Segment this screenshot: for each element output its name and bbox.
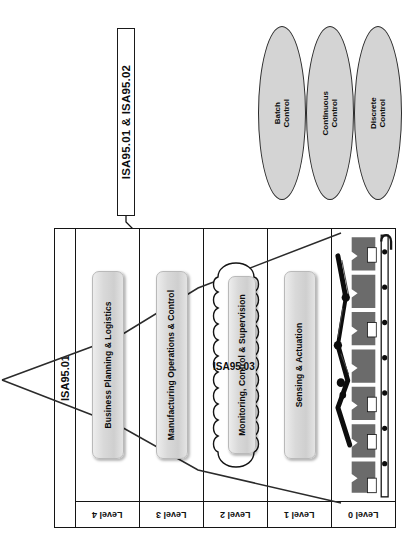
level-1-footer: Level 1	[268, 501, 331, 527]
function-box-manufacturing-operations-label: Manufacturing Operations & Control	[167, 290, 177, 440]
level-column-2: ISA95.03 Monitoring, Control & Supervisi…	[204, 229, 268, 527]
isa9503-cloud-label: ISA95.03	[213, 361, 255, 372]
discrete-line1: Discrete	[369, 97, 378, 129]
function-box-business-planning-label: Business Planning & Logistics	[103, 301, 113, 428]
level-column-3: Manufacturing Operations & Control Level…	[140, 229, 204, 527]
level-2-label: Level 2	[220, 510, 251, 520]
standards-callout-box: ISA95.01 & ISA95.02	[117, 28, 135, 216]
ellipse-batch-control: Batch Control	[258, 26, 306, 200]
ellipse-continuous-control-label: Continuous Control	[321, 91, 339, 135]
ellipse-discrete-control: Discrete Control	[354, 26, 402, 200]
level-4-label: Level 4	[92, 510, 123, 520]
level-column-4: Business Planning & Logistics Level 4	[76, 229, 140, 527]
function-box-sensing-actuation: Sensing & Actuation	[284, 271, 316, 459]
level-0-label: Level 0	[348, 510, 379, 520]
continuous-line1: Continuous	[321, 91, 330, 135]
level-3-footer: Level 3	[140, 501, 203, 527]
level-2-body: ISA95.03 Monitoring, Control & Supervisi…	[204, 229, 267, 501]
batch-line2: Control	[282, 99, 291, 127]
ellipse-continuous-control: Continuous Control	[306, 26, 354, 200]
isa9501-side-label: ISA95.01	[59, 355, 71, 401]
level-4-footer: Level 4	[76, 501, 139, 527]
level-4-body: Business Planning & Logistics	[76, 229, 139, 501]
isa9503-cloud-label-wrap: ISA95.03	[213, 356, 255, 374]
level-column-1: Sensing & Actuation Level 1	[268, 229, 332, 527]
ellipse-batch-control-label: Batch Control	[273, 99, 291, 127]
function-box-business-planning: Business Planning & Logistics	[92, 271, 124, 459]
level-columns: Business Planning & Logistics Level 4 Ma…	[76, 229, 395, 527]
isa9501-side-strip: ISA95.01	[55, 229, 76, 527]
level-2-footer: Level 2	[204, 501, 267, 527]
batch-line1: Batch	[273, 102, 282, 124]
continuous-line2: Control	[330, 99, 339, 127]
level-0-body	[332, 229, 395, 501]
level-1-label: Level 1	[284, 510, 315, 520]
level-3-body: Manufacturing Operations & Control	[140, 229, 203, 501]
level-1-body: Sensing & Actuation	[268, 229, 331, 501]
ellipse-discrete-control-label: Discrete Control	[369, 97, 387, 129]
discrete-line2: Control	[378, 99, 387, 127]
function-box-sensing-actuation-label: Sensing & Actuation	[295, 323, 305, 408]
level-column-0: Level 0	[332, 229, 395, 527]
level-3-label: Level 3	[156, 510, 187, 520]
process-plant-graphic	[332, 229, 395, 501]
standards-callout-label: ISA95.01 & ISA95.02	[120, 65, 132, 179]
hierarchy-frame: ISA95.01 Business Planning & Logistics L…	[54, 228, 396, 528]
level-0-footer: Level 0	[332, 501, 395, 527]
function-box-manufacturing-operations: Manufacturing Operations & Control	[156, 271, 188, 459]
